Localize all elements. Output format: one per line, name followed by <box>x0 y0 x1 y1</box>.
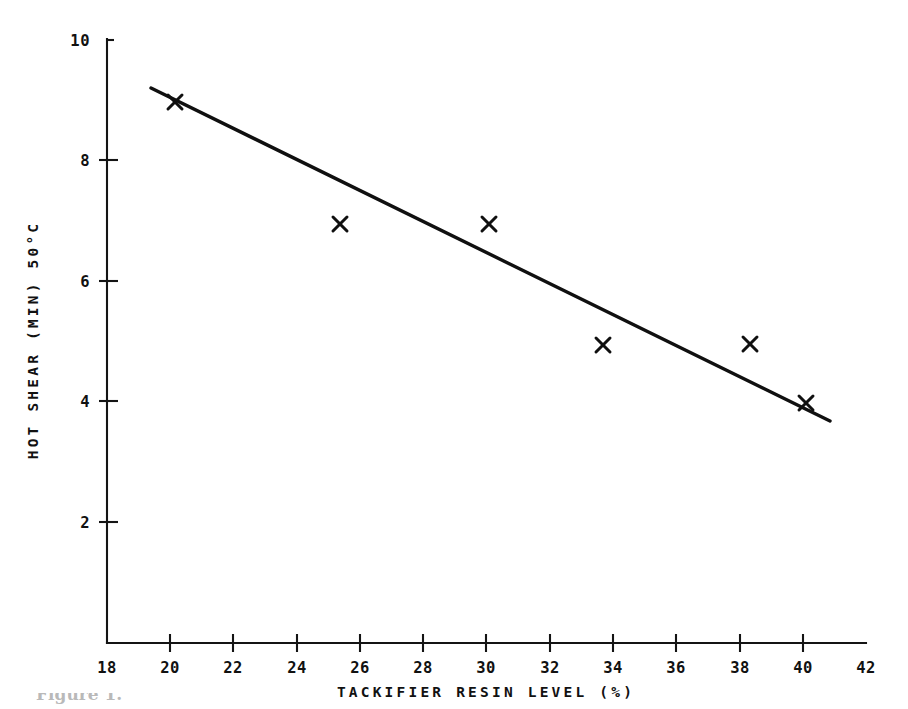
data-point-marker <box>482 217 496 231</box>
trend-line <box>151 88 830 421</box>
figure-caption: Figure 1. <box>36 693 122 704</box>
x-tick-label-22: 22 <box>223 659 243 677</box>
data-point-marker <box>596 338 610 352</box>
y-axis-ticks <box>99 40 118 522</box>
data-point-marker <box>743 337 757 351</box>
x-tick-label-28: 28 <box>413 659 433 677</box>
x-axis-tick-labels: 18 20 22 24 26 28 30 32 34 36 38 40 42 <box>97 659 876 677</box>
x-tick-label-30: 30 <box>476 659 496 677</box>
y-tick-label-6: 6 <box>80 273 90 291</box>
y-axis-title: HOT SHEAR (MIN) 50°C <box>25 221 41 460</box>
x-tick-label-36: 36 <box>666 659 686 677</box>
y-tick-label-2: 2 <box>80 514 90 532</box>
figure-container: 2 4 6 8 10 18 20 22 24 26 28 30 <box>0 0 908 709</box>
x-tick-label-26: 26 <box>350 659 370 677</box>
y-tick-label-8: 8 <box>80 152 90 170</box>
x-tick-label-42: 42 <box>856 659 876 677</box>
scatter-plot: 2 4 6 8 10 18 20 22 24 26 28 30 <box>0 0 908 709</box>
x-tick-label-38: 38 <box>730 659 750 677</box>
figure-caption-strip: Figure 1. <box>0 693 908 709</box>
y-tick-label-4: 4 <box>80 393 90 411</box>
y-tick-label-10: 10 <box>70 32 90 50</box>
x-tick-label-20: 20 <box>160 659 180 677</box>
x-tick-label-34: 34 <box>603 659 623 677</box>
x-tick-label-24: 24 <box>287 659 307 677</box>
x-tick-label-32: 32 <box>540 659 560 677</box>
data-point-marker <box>333 217 347 231</box>
y-axis-tick-labels: 2 4 6 8 10 <box>70 32 90 532</box>
x-tick-label-18: 18 <box>97 659 117 677</box>
x-tick-label-40: 40 <box>793 659 813 677</box>
